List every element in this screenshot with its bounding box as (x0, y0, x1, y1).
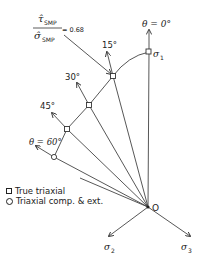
arrow-theta-15 (107, 52, 113, 76)
svg-text:= 0.68: = 0.68 (62, 26, 84, 34)
svg-text:σ: σ (153, 49, 160, 59)
failure-locus-diagram: τ̂ SMP σ̂ SMP = 0.68 θ = 0° 15° 30° 45° … (0, 0, 202, 258)
sigma2-label: σ 2 (104, 242, 115, 254)
square-marker-15 (111, 74, 116, 79)
svg-text:2: 2 (111, 247, 115, 254)
square-marker-30 (87, 103, 92, 108)
svg-text:σ: σ (181, 242, 188, 252)
origin-label: O (152, 203, 159, 213)
angle-label-30: 30° (65, 72, 80, 82)
square-symbol-icon (6, 188, 12, 194)
radial-line-15 (113, 76, 148, 207)
sigma3-label: σ 3 (181, 242, 192, 254)
angle-label-15: 15° (102, 40, 117, 50)
legend-item-true-triaxial: True triaxial (6, 186, 103, 196)
legend: True triaxial Triaxial comp. & ext. (6, 186, 103, 206)
svg-text:1: 1 (160, 54, 164, 61)
svg-text:SMP: SMP (44, 19, 57, 26)
svg-text:σ̂: σ̂ (34, 30, 42, 41)
square-marker-45 (65, 127, 70, 132)
arrow-theta-30 (77, 83, 89, 105)
sigma1-label: σ 1 (153, 49, 164, 61)
radial-line-0 (148, 52, 149, 207)
circle-marker-60 (51, 154, 56, 159)
arrow-sigma2 (109, 207, 148, 236)
origin-point (146, 205, 149, 208)
angle-label-0: θ = 0° (142, 19, 171, 29)
svg-text:σ: σ (104, 242, 111, 252)
square-marker-0 (146, 49, 151, 54)
angle-label-45: 45° (40, 101, 55, 111)
circle-symbol-icon (6, 198, 13, 205)
arrow-theta-60 (36, 146, 54, 157)
svg-text:SMP: SMP (42, 36, 55, 43)
svg-text:3: 3 (188, 247, 192, 254)
legend-item-triaxial-comp-ext: Triaxial comp. & ext. (6, 196, 103, 206)
failure-locus-curve (54, 52, 149, 157)
angle-label-60: θ = 60° (29, 137, 62, 147)
ratio-label: τ̂ SMP σ̂ SMP = 0.68 (33, 13, 84, 43)
